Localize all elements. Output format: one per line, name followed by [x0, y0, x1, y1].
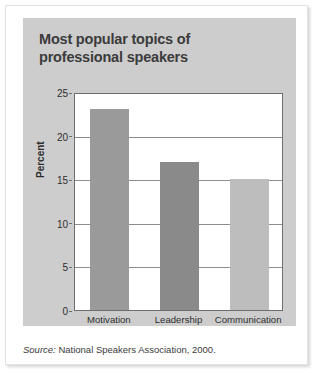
bar-motivation: [90, 109, 129, 310]
plot-area: [74, 93, 283, 311]
source-label: Source:: [23, 344, 56, 355]
figure-card: Most popular topics of professional spea…: [5, 5, 308, 365]
y-tick-label: 25: [57, 88, 68, 99]
chart-panel: Most popular topics of professional spea…: [23, 18, 296, 326]
source-note: Source: National Speakers Association, 2…: [23, 344, 216, 355]
y-tick-mark: [69, 223, 72, 224]
y-tick-label: 20: [57, 131, 68, 142]
y-tick-label: 0: [62, 306, 68, 317]
bar-leadership: [160, 162, 199, 310]
y-tick-mark: [69, 267, 72, 268]
page-title: Most popular topics of professional spea…: [39, 31, 269, 66]
x-tick-label: Leadership: [155, 314, 202, 325]
y-tick-label: 10: [57, 218, 68, 229]
source-text: National Speakers Association, 2000.: [56, 344, 216, 355]
x-axis: MotivationLeadershipCommunication: [74, 314, 283, 332]
y-axis: 2520151050: [23, 93, 72, 311]
y-tick-label: 15: [57, 175, 68, 186]
y-tick-mark: [69, 136, 72, 137]
x-tick-label: Communication: [215, 314, 282, 325]
bar-communication: [230, 179, 269, 310]
y-tick-mark: [69, 93, 72, 94]
y-tick-mark: [69, 311, 72, 312]
y-tick-label: 5: [62, 262, 68, 273]
y-tick-mark: [69, 180, 72, 181]
x-tick-label: Motivation: [87, 314, 131, 325]
